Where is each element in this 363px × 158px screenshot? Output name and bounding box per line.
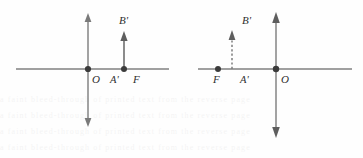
left-point-o-dot	[85, 66, 91, 72]
right-vertical-axis-bottom-arrowhead	[272, 127, 280, 138]
optics-figure: a faint bleed-through of printed text fr…	[0, 0, 363, 158]
left-point-f-dot	[121, 66, 127, 72]
figure-canvas: O A' F B' F A' O B'	[0, 0, 363, 158]
left-diagram: O A' F B'	[16, 13, 169, 127]
left-vertical-axis-top-arrowhead	[85, 13, 92, 22]
right-label-b-prime: B'	[242, 14, 252, 26]
left-vertical-axis-bottom-arrowhead	[85, 118, 92, 127]
right-point-o-dot	[273, 66, 279, 72]
right-point-f-dot	[215, 66, 221, 72]
left-label-b-prime: B'	[119, 14, 129, 26]
right-b-prime-arrowhead	[229, 30, 236, 40]
right-label-a-prime: A'	[239, 74, 249, 85]
right-diagram: F A' O B'	[198, 12, 352, 138]
left-label-f: F	[132, 73, 140, 85]
right-label-o: O	[281, 73, 289, 85]
right-vertical-axis-top-arrowhead	[272, 12, 280, 23]
left-b-prime-arrowhead	[120, 31, 127, 41]
left-label-o: O	[92, 73, 100, 85]
right-label-f: F	[212, 73, 220, 85]
left-label-a-prime: A'	[109, 74, 119, 85]
